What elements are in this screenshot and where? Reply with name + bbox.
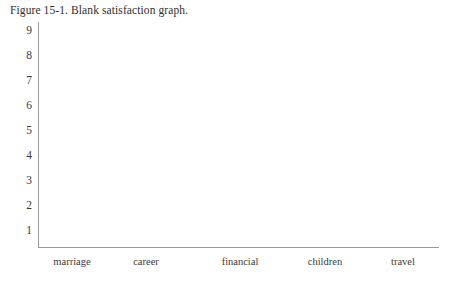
y-tick-label-2: 2 xyxy=(0,199,32,211)
x-tick-label-marriage: marriage xyxy=(53,255,90,269)
x-axis-line xyxy=(38,247,439,248)
y-axis-line xyxy=(38,22,39,248)
y-tick-label-6: 6 xyxy=(0,99,32,111)
y-tick-label-1: 1 xyxy=(0,224,32,236)
x-tick-label-financial: financial xyxy=(222,255,259,269)
y-tick-label-7: 7 xyxy=(0,74,32,86)
x-axis-tick-labels: marriage career financial children trave… xyxy=(38,255,439,271)
y-tick-label-9: 9 xyxy=(0,24,32,36)
y-tick-label-5: 5 xyxy=(0,124,32,136)
y-axis-tick-labels: 9 8 7 6 5 4 3 2 1 xyxy=(0,0,32,248)
x-tick-label-travel: travel xyxy=(391,255,415,269)
figure-page: Figure 15-1. Blank satisfaction graph. 9… xyxy=(0,0,453,282)
satisfaction-chart: 9 8 7 6 5 4 3 2 1 marriage career financ… xyxy=(0,0,453,282)
plot-surface xyxy=(39,22,439,247)
y-tick-label-8: 8 xyxy=(0,49,32,61)
y-tick-label-3: 3 xyxy=(0,174,32,186)
y-tick-label-4: 4 xyxy=(0,149,32,161)
x-tick-label-children: children xyxy=(308,255,342,269)
x-tick-label-career: career xyxy=(133,255,159,269)
